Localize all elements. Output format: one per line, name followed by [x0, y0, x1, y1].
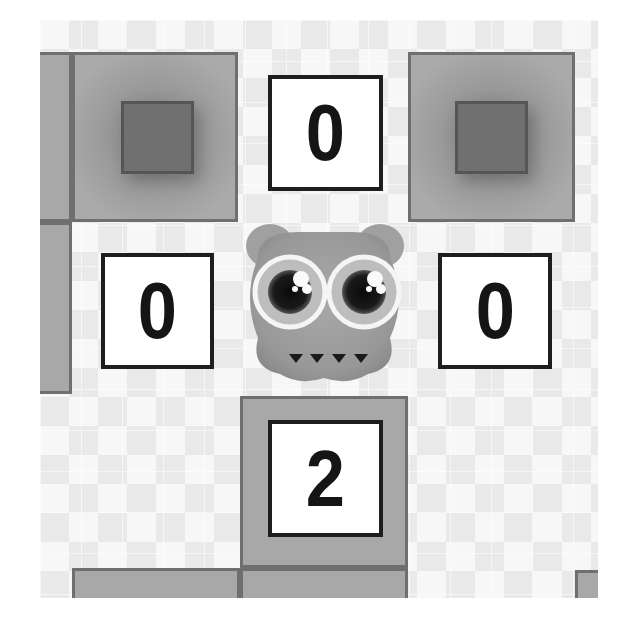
number-tile-right[interactable]: 0	[438, 253, 552, 369]
target-marker-icon	[455, 101, 528, 174]
number-tile-left[interactable]: 0	[101, 253, 214, 369]
target-block-top-right	[408, 52, 575, 222]
wall-block-partial-bottom-left	[72, 568, 240, 598]
tile-value: 0	[138, 271, 177, 351]
owl-creature-icon	[238, 218, 410, 388]
number-tile-bottom[interactable]: 2	[268, 420, 383, 537]
wall-block-partial-left	[40, 222, 72, 394]
tile-value: 2	[306, 439, 345, 519]
wall-block-partial-top-left	[40, 52, 72, 222]
tile-value: 0	[306, 93, 345, 173]
number-tile-top[interactable]: 0	[268, 75, 383, 191]
target-block-top-left	[72, 52, 238, 222]
tile-value: 0	[475, 271, 514, 351]
player-character	[238, 218, 410, 388]
target-marker-icon	[121, 101, 194, 174]
wall-block-partial-bottom-right	[575, 570, 598, 598]
wall-block-partial-bottom-center	[240, 568, 408, 598]
wall-block-center-bottom: 2	[240, 396, 408, 568]
